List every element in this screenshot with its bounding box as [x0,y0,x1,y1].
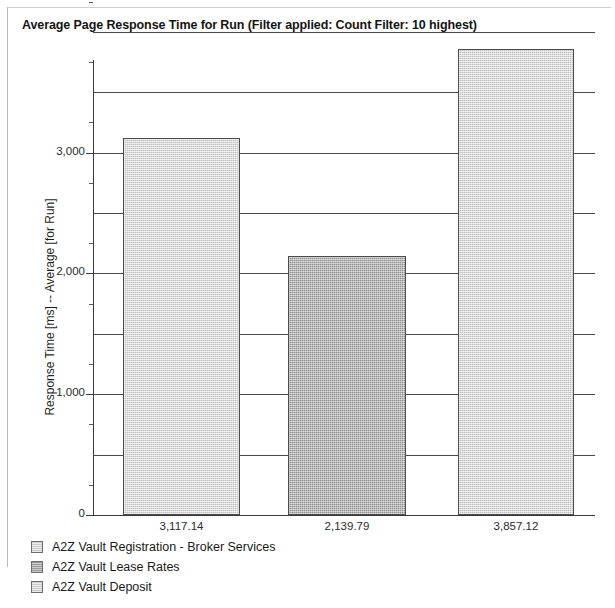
legend-swatch-icon [31,541,43,553]
legend-swatch-icon [31,581,43,593]
x-axis-line [93,515,595,516]
legend-item-label: A2Z Vault Lease Rates [52,560,180,574]
bar-value-label-3: 3,857.12 [436,520,596,532]
bar-chart-plot: 01,0002,0003,000 Response Time [ms] -- A… [0,0,615,608]
legend-item-label: A2Z Vault Registration - Broker Services [52,540,275,554]
bar-2[interactable] [288,256,406,515]
bar-value-label-2: 2,139.79 [267,520,427,532]
legend-item-label: A2Z Vault Deposit [52,580,152,594]
legend-item-1[interactable]: A2Z Vault Registration - Broker Services [31,537,275,557]
bar-1[interactable] [123,138,240,515]
y-axis-tick-label: 0 [37,507,85,519]
gridline [93,32,595,33]
bar-3[interactable] [458,49,574,515]
y-axis-minor-tick [89,2,93,3]
y-axis-line [93,60,94,516]
report-panel: Average Page Response Time for Run (Filt… [0,0,615,608]
bar-value-label-1: 3,117.14 [102,520,262,532]
chart-legend: A2Z Vault Registration - Broker Services… [31,537,275,597]
legend-item-2[interactable]: A2Z Vault Lease Rates [31,557,275,577]
legend-item-3[interactable]: A2Z Vault Deposit [31,577,275,597]
y-axis-title: Response Time [ms] -- Average [for Run] [43,107,57,507]
legend-swatch-icon [31,561,43,573]
